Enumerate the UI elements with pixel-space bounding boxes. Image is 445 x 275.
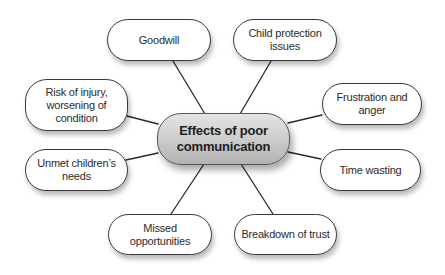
- node-child-protection: Child protection issues: [233, 19, 337, 61]
- connector-risk-of-injury: [127, 116, 158, 124]
- connector-time-wasting: [288, 152, 321, 159]
- central-topic-node: Effects of poor communication: [157, 113, 290, 165]
- node-unmet-needs-label: Unmet children’s needs: [37, 157, 116, 183]
- node-missed-opportunities: Missed opportunities: [108, 214, 212, 255]
- connector-frustration: [288, 115, 322, 123]
- node-child-protection-label: Child protection issues: [248, 27, 321, 53]
- connector-unmet-needs: [126, 153, 158, 160]
- node-missed-opportunities-label: Missed opportunities: [112, 222, 208, 248]
- node-time-wasting: Time wasting: [320, 149, 421, 191]
- mind-map-diagram: Goodwill Child protection issues Risk of…: [0, 0, 445, 275]
- node-goodwill-label: Goodwill: [139, 34, 180, 47]
- connector-missed-opportunities: [171, 164, 204, 214]
- node-unmet-needs: Unmet children’s needs: [25, 149, 128, 191]
- node-frustration: Frustration and anger: [322, 83, 422, 125]
- central-topic-label: Effects of poor communication: [177, 123, 270, 155]
- node-risk-of-injury: Risk of injury, worsening of condition: [25, 79, 128, 131]
- connector-child-protection: [240, 61, 271, 114]
- node-breakdown-of-trust: Breakdown of trust: [234, 214, 337, 255]
- node-risk-of-injury-label: Risk of injury, worsening of condition: [45, 86, 107, 125]
- connector-breakdown-of-trust: [241, 164, 273, 214]
- node-time-wasting-label: Time wasting: [340, 164, 402, 177]
- node-breakdown-of-trust-label: Breakdown of trust: [241, 228, 329, 241]
- connector-goodwill: [173, 61, 205, 114]
- node-goodwill: Goodwill: [107, 19, 211, 61]
- node-frustration-label: Frustration and anger: [337, 91, 408, 117]
